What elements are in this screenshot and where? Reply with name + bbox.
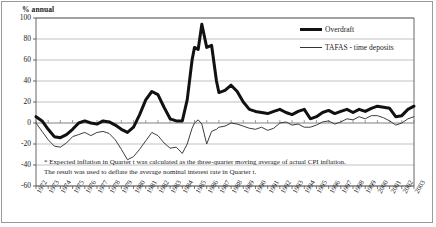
y-tick-label: -60 xyxy=(9,182,31,190)
footnote-line-2: The result was used to deflate the avera… xyxy=(44,168,394,178)
legend-label-tafas: TAFAS - time deposits xyxy=(325,43,394,52)
y-tick-label: 60 xyxy=(9,56,31,64)
y-tick-label: 0 xyxy=(9,119,31,127)
footnote-line-1: * Expected inflation in Quarter t was ca… xyxy=(44,158,394,168)
legend-item-overdraft: Overdraft xyxy=(300,22,430,36)
y-tick-label: 100 xyxy=(9,14,31,22)
y-tick-label: -20 xyxy=(9,140,31,148)
y-tick-label: 20 xyxy=(9,98,31,106)
y-tick-label: -40 xyxy=(9,161,31,169)
chart-legend: Overdraft TAFAS - time deposits xyxy=(300,22,430,58)
legend-swatch-tafas-icon xyxy=(300,47,322,48)
chart-footnote: * Expected inflation in Quarter t was ca… xyxy=(44,158,394,177)
legend-item-tafas: TAFAS - time deposits xyxy=(300,40,430,54)
legend-label-overdraft: Overdraft xyxy=(325,25,354,34)
y-tick-label: 40 xyxy=(9,77,31,85)
legend-swatch-overdraft-icon xyxy=(300,28,322,31)
y-tick-label: 80 xyxy=(9,35,31,43)
chart-figure: % annual 100806040200-20-40-601972197319… xyxy=(0,0,436,227)
